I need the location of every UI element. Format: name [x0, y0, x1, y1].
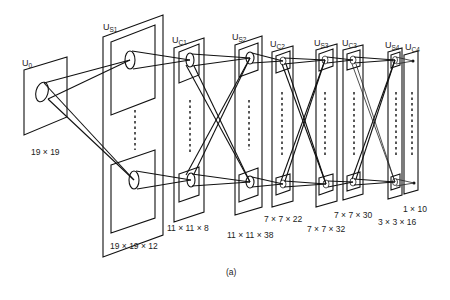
label-us3: US3	[314, 38, 329, 49]
neocognitron-diagram: U0 US1 UC1 US2 UC2 US3 UC3 US4 UC4 19 × …	[0, 0, 450, 300]
dims-uc4: 1 × 10	[403, 204, 427, 214]
label-us4: US4	[385, 40, 400, 51]
connections	[44, 51, 414, 189]
dims-us4: 3 × 3 × 16	[378, 217, 417, 227]
label-uc2: UC2	[270, 39, 285, 50]
dims-us1: 19 × 19 × 12	[110, 241, 158, 251]
layer-uc4	[404, 51, 418, 194]
dims-u0: 19 × 19	[31, 147, 60, 157]
label-us1: US1	[103, 22, 118, 33]
dims-us2: 11 × 11 × 38	[227, 230, 274, 240]
layer-us3	[316, 44, 337, 207]
label-us2: US2	[232, 32, 247, 43]
dims-uc3: 7 × 7 × 30	[334, 210, 373, 220]
dimension-labels: 19 × 19 19 × 19 × 12 11 × 11 × 8 11 × 11…	[31, 147, 427, 251]
label-u0: U0	[22, 58, 33, 69]
label-uc1: UC1	[172, 35, 187, 46]
layer-uc2	[272, 46, 293, 207]
label-uc4: UC4	[405, 42, 420, 53]
label-uc3: UC3	[342, 38, 357, 49]
dims-uc1: 11 × 11 × 8	[167, 223, 209, 233]
dims-uc2: 7 × 7 × 22	[264, 214, 303, 224]
figure-caption: (a)	[226, 267, 237, 277]
layer-us4	[388, 48, 402, 199]
layer-uc1	[174, 38, 204, 222]
dims-us3: 7 × 7 × 32	[307, 224, 346, 234]
